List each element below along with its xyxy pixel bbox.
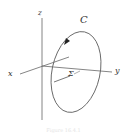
diagram-canvas xyxy=(0,0,127,137)
curve-c xyxy=(44,27,108,117)
x-axis xyxy=(20,57,69,74)
z-axis-label: z xyxy=(38,10,42,17)
figure: z C x y Σ Figure 16.4.1 xyxy=(0,0,127,137)
surface-sigma-label: Σ xyxy=(68,70,74,78)
x-axis-label: x xyxy=(8,70,13,78)
sigma-pointer-tail xyxy=(74,71,80,74)
curve-arrow-icon xyxy=(64,38,70,45)
curve-label: C xyxy=(80,15,88,25)
figure-caption: Figure 16.4.1 xyxy=(0,127,127,133)
y-axis-label: y xyxy=(115,67,120,75)
